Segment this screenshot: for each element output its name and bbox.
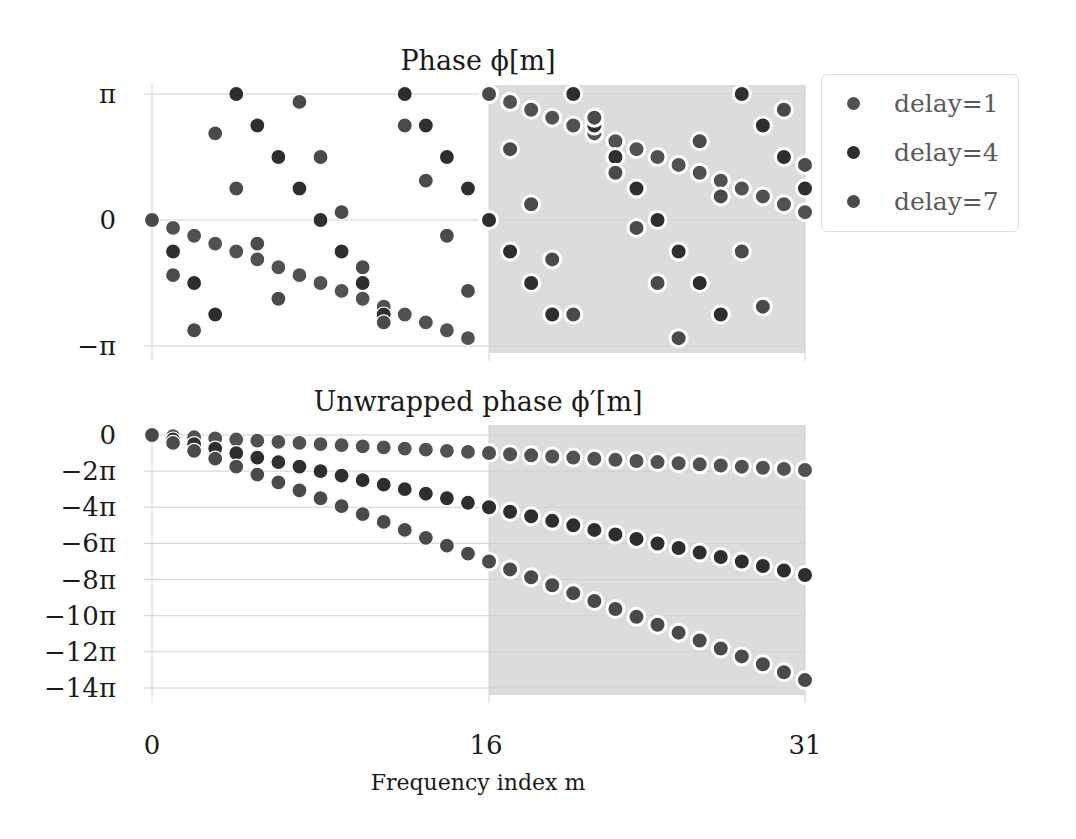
data-point [418, 486, 433, 501]
y-tick-label: 0 [99, 205, 116, 235]
data-point [460, 331, 475, 346]
data-point [775, 101, 792, 118]
data-point [670, 455, 687, 472]
data-point [649, 275, 666, 292]
data-point [250, 433, 265, 448]
data-point [250, 118, 265, 133]
data-point [754, 117, 771, 134]
data-point [502, 561, 519, 578]
data-point [754, 656, 771, 673]
data-point [628, 608, 645, 625]
y-tick-label: −14π [44, 673, 116, 703]
data-point [187, 443, 202, 458]
data-point [355, 276, 370, 291]
data-point [565, 585, 582, 602]
data-point [797, 567, 814, 584]
plot-title: Phase ϕ[m] [400, 45, 555, 76]
data-point [733, 553, 750, 570]
data-point [797, 180, 814, 197]
data-point [733, 243, 750, 260]
data-point [439, 323, 454, 338]
legend-item-delay-7: delay=7 [822, 181, 1018, 221]
data-point [691, 275, 708, 292]
data-point [250, 236, 265, 251]
data-point [733, 86, 750, 103]
data-point [775, 664, 792, 681]
data-point [460, 181, 475, 196]
data-point [565, 306, 582, 323]
legend-label: delay=4 [894, 138, 999, 167]
y-tick-label: −8π [61, 565, 116, 595]
data-point [586, 593, 603, 610]
data-point [460, 444, 475, 459]
data-point [313, 276, 328, 291]
x-tick-31: 31 [788, 730, 821, 760]
data-point [565, 117, 582, 134]
data-point [712, 457, 729, 474]
x-tick-labels: 0 16 31 [144, 730, 822, 760]
data-point [397, 118, 412, 133]
data-point [565, 517, 582, 534]
data-point [355, 439, 370, 454]
data-point [439, 538, 454, 553]
data-point [628, 180, 645, 197]
data-point [523, 447, 540, 464]
data-point [460, 546, 475, 561]
data-point [628, 452, 645, 469]
data-point [502, 141, 519, 158]
data-point [733, 458, 750, 475]
data-point [187, 276, 202, 291]
data-point [271, 260, 286, 275]
data-point [481, 553, 498, 570]
data-point [754, 558, 771, 575]
data-point [502, 243, 519, 260]
data-point [418, 442, 433, 457]
data-point [649, 616, 666, 633]
data-point [271, 455, 286, 470]
x-tick-16: 16 [469, 730, 502, 760]
data-point [292, 483, 307, 498]
data-point [439, 228, 454, 243]
data-point [355, 260, 370, 275]
y-tick-labels: π0−π [77, 79, 116, 361]
data-point [565, 86, 582, 103]
data-point [355, 507, 370, 522]
data-point [712, 640, 729, 657]
data-point [397, 307, 412, 322]
data-point [544, 109, 561, 126]
data-point [229, 244, 244, 259]
data-point [376, 440, 391, 455]
data-point [754, 188, 771, 205]
data-point [271, 475, 286, 490]
data-point [397, 87, 412, 102]
data-point [481, 445, 498, 462]
x-tick-0: 0 [144, 730, 161, 760]
data-point [775, 460, 792, 477]
y-tick-label: −12π [44, 637, 116, 667]
data-point [775, 149, 792, 166]
data-point [229, 459, 244, 474]
data-point [439, 150, 454, 165]
data-point [439, 491, 454, 506]
data-point [670, 243, 687, 260]
data-point [733, 648, 750, 665]
legend: delay=1 delay=4 delay=7 [821, 74, 1019, 232]
data-points [145, 428, 814, 689]
data-point [376, 514, 391, 529]
data-point [775, 196, 792, 213]
data-point [166, 435, 181, 450]
legend-label: delay=1 [894, 89, 999, 118]
data-point [607, 600, 624, 617]
data-point [586, 109, 603, 126]
marker-icon [847, 195, 860, 208]
unwrapped-phase-plot: 0−2π−4π−6π−8π−10π−12π−14π Unwrapped phas… [44, 386, 813, 703]
data-point [208, 126, 223, 141]
data-point [439, 443, 454, 458]
data-point [229, 446, 244, 461]
data-point [502, 503, 519, 520]
data-point [187, 323, 202, 338]
data-point [229, 181, 244, 196]
legend-label: delay=7 [894, 187, 999, 216]
data-point [292, 268, 307, 283]
data-point [313, 150, 328, 165]
